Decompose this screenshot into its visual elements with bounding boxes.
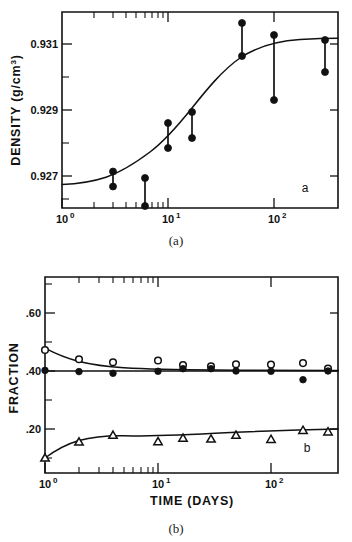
svg-text:10: 10 <box>152 478 164 490</box>
panel-a-xtick-label-1e2: 10 2 <box>268 211 287 225</box>
svg-text:2: 2 <box>282 211 287 220</box>
svg-text:FRACTION: FRACTION <box>7 343 21 414</box>
svg-text:0: 0 <box>70 211 75 220</box>
panel-b-axes-frame <box>45 277 338 473</box>
panel-a-range-bar <box>110 168 117 190</box>
svg-text:0: 0 <box>53 476 58 485</box>
panel-b: .60 .40 .20 FRACTION <box>7 277 338 536</box>
panel-a-x-ticks-top <box>94 12 274 22</box>
svg-text:10: 10 <box>268 213 280 225</box>
panel-a-caption: (a) <box>169 233 183 248</box>
panel-b-x-ticks-top <box>79 277 271 287</box>
panel-a-range-bar <box>165 120 172 152</box>
svg-text:1: 1 <box>166 476 171 485</box>
panel-a-y-axis-title-text: DENSITY (g/cm <box>9 65 23 166</box>
panel-b-ytick-label-60: .60 <box>26 307 41 319</box>
panel-a-y-axis-title: DENSITY (g/cm3) <box>9 54 23 165</box>
panel-b-xtick-label-1e0: 10 0 <box>39 476 58 490</box>
panel-a-ytick-label-0931: 0.931 <box>30 38 58 50</box>
panel-b-x-ticks-bottom <box>45 463 271 473</box>
panel-b-inline-tag: b <box>304 441 311 455</box>
panel-a-x-ticks-bottom <box>62 198 274 208</box>
panel-a-y-ticks-right <box>330 44 338 176</box>
figure-svg: 0.931 0.929 0.927 DENSITY (g/cm3) <box>0 0 352 542</box>
panel-b-curve-triangles <box>45 429 338 458</box>
svg-text:2: 2 <box>279 476 284 485</box>
panel-b-points-filled-circles <box>42 365 332 383</box>
panel-a-range-bar <box>189 109 196 142</box>
panel-b-ytick-label-20: .20 <box>26 423 41 435</box>
panel-b-xtick-label-1e1: 10 1 <box>152 476 171 490</box>
figure-container: 0.931 0.929 0.927 DENSITY (g/cm3) <box>0 0 352 542</box>
panel-a-range-bar <box>239 20 246 60</box>
panel-a-ytick-label-0929: 0.929 <box>30 104 58 116</box>
panel-b-curve-open-circles <box>45 348 338 370</box>
svg-text:10: 10 <box>56 213 68 225</box>
panel-a-y-ticks <box>62 44 72 199</box>
panel-a-range-bar <box>142 175 149 210</box>
panel-b-points-open-triangles <box>41 426 332 461</box>
svg-text:DENSITY (g/cm3): DENSITY (g/cm3) <box>9 54 23 165</box>
panel-a-xtick-label-1e1: 10 1 <box>162 211 181 225</box>
panel-b-x-axis-title: TIME (DAYS) <box>150 494 234 508</box>
panel-b-ytick-label-40: .40 <box>26 365 41 377</box>
panel-b-y-axis-title: FRACTION <box>7 343 21 414</box>
panel-a: 0.931 0.929 0.927 DENSITY (g/cm3) <box>9 12 338 248</box>
panel-a-fit-curve <box>62 38 338 184</box>
svg-text:10: 10 <box>265 478 277 490</box>
panel-a-inline-tag: a <box>302 181 309 195</box>
panel-a-data-points <box>110 20 329 210</box>
panel-b-xtick-label-1e2: 10 2 <box>265 476 284 490</box>
svg-text:10: 10 <box>162 213 174 225</box>
svg-text:1: 1 <box>176 211 181 220</box>
panel-a-ytick-label-0927: 0.927 <box>30 170 58 182</box>
panel-a-range-bar <box>322 37 329 76</box>
panel-a-y-axis-title-tail: ) <box>9 54 23 59</box>
panel-a-xtick-label-1e0: 10 0 <box>56 211 75 225</box>
panel-b-caption: (b) <box>168 521 183 536</box>
svg-text:10: 10 <box>39 478 51 490</box>
